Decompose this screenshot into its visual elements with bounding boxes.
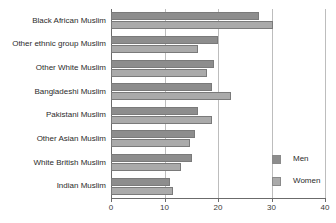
x-tick-label: 30 <box>267 203 276 213</box>
x-tick-label: 0 <box>109 203 113 213</box>
category-label: Indian Muslim <box>57 181 106 190</box>
gridline-40 <box>325 9 326 198</box>
category-label: Black African Muslim <box>32 16 106 25</box>
bar <box>111 69 207 77</box>
x-tick-label: 40 <box>321 203 330 213</box>
tick-mark-0 <box>111 198 112 202</box>
bar-chart: 010203040 Black African MuslimOther ethn… <box>0 0 336 223</box>
bar <box>111 45 198 53</box>
legend-label: Women <box>293 175 320 186</box>
legend-swatch-men <box>272 155 281 164</box>
bar <box>111 92 231 100</box>
bar <box>111 187 173 195</box>
category-label: Bangladeshi Muslim <box>34 87 106 96</box>
bar <box>111 83 212 91</box>
x-tick-label: 10 <box>160 203 169 213</box>
plot-area <box>111 9 325 198</box>
bar <box>111 60 214 68</box>
bar <box>111 107 198 115</box>
bar <box>111 21 273 29</box>
legend-swatch-women <box>272 177 281 186</box>
tick-mark-20 <box>218 198 219 202</box>
category-label: Other Asian Muslim <box>37 134 106 143</box>
bar <box>111 178 170 186</box>
x-tick-label: 20 <box>214 203 223 213</box>
bar <box>111 163 181 171</box>
category-label: Other ethnic group Muslim <box>12 39 106 48</box>
bar <box>111 116 212 124</box>
legend-label: Men <box>293 153 309 164</box>
bar <box>111 139 190 147</box>
bar <box>111 154 192 162</box>
gridline-30 <box>272 9 273 198</box>
tick-mark-30 <box>272 198 273 202</box>
bar <box>111 12 259 20</box>
category-label: White British Muslim <box>34 158 106 167</box>
bar <box>111 130 195 138</box>
tick-mark-10 <box>165 198 166 202</box>
category-label: Pakistani Muslim <box>46 110 106 119</box>
category-label: Other White Muslim <box>36 63 106 72</box>
tick-mark-40 <box>325 198 326 202</box>
bar <box>111 36 218 44</box>
gridline-20 <box>218 9 219 198</box>
